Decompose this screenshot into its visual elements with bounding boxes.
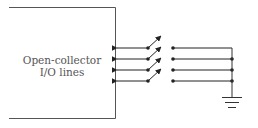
io-line-2 bbox=[117, 47, 234, 61]
ground-icon bbox=[222, 48, 242, 108]
io-line-4 bbox=[117, 69, 234, 83]
switch-arm-2 bbox=[148, 47, 161, 59]
io-line-3 bbox=[117, 58, 234, 72]
box-label-line2: I/O lines bbox=[9, 66, 115, 78]
box-label-line1: Open-collector bbox=[9, 54, 115, 66]
io-line-1 bbox=[117, 36, 232, 50]
switch-arm-4 bbox=[148, 69, 161, 81]
switch-arm-3 bbox=[148, 58, 161, 70]
switch-arm-1 bbox=[148, 36, 161, 48]
